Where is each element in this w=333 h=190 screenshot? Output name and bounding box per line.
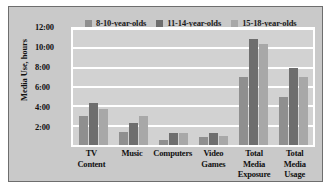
x-axis-tick-label-line: Music (112, 148, 153, 159)
bar (239, 77, 248, 145)
y-axis-tick-labels: 2:004:006:008:0010:0012:00 (35, 27, 69, 147)
y-axis-tick-label: 4:00 (35, 102, 69, 112)
legend-swatch-icon (85, 20, 92, 27)
bar (209, 133, 218, 145)
x-axis-tick-label: TotalMedia Usage (274, 148, 315, 180)
y-axis-tick-label: 6:00 (35, 82, 69, 92)
bar (219, 136, 228, 145)
x-axis-tick-label-line: Media Usage (274, 159, 315, 180)
bar (199, 137, 208, 145)
bar (179, 133, 188, 145)
legend-swatch-icon (231, 20, 238, 27)
bar (119, 132, 128, 145)
bar (79, 116, 88, 145)
plot-area (71, 27, 315, 147)
y-axis-tick-label: 10:00 (35, 42, 69, 52)
bar (159, 140, 168, 145)
y-axis-tick-label: 12:00 (35, 22, 69, 32)
x-axis-tick-label-line: Total (274, 148, 315, 159)
x-axis-tick-label-line: Computers (152, 148, 193, 159)
x-axis-tick-label: Music (112, 148, 153, 180)
bar (169, 133, 178, 145)
x-axis-tick-label-line: Total Media (234, 148, 275, 169)
bar (139, 116, 148, 145)
x-axis-tick-label: Computers (152, 148, 193, 180)
bar (129, 123, 138, 145)
bar-group (279, 29, 308, 145)
x-axis-tick-label: VideoGames (193, 148, 234, 180)
x-axis-tick-label-line: Video (193, 148, 234, 159)
bar (259, 44, 268, 146)
y-axis-tick-label: 8:00 (35, 62, 69, 72)
bar-group (159, 29, 188, 145)
bar (299, 77, 308, 145)
bar (99, 109, 108, 145)
bar (279, 97, 288, 145)
chart-figure: 8-10-year-olds11-14-year-olds15-18-year-… (8, 6, 323, 182)
bar-group (239, 29, 268, 145)
x-axis-tick-label-line: Games (193, 159, 234, 170)
bar (289, 68, 298, 145)
bar-group (119, 29, 148, 145)
legend-swatch-icon (156, 20, 163, 27)
x-axis-tick-label: TV Content (71, 148, 112, 180)
bar-group (199, 29, 228, 145)
y-axis-tick-label: 2:00 (35, 122, 69, 132)
bar (249, 39, 258, 145)
bar (89, 103, 98, 145)
y-axis-title: Media Use, hours (19, 22, 29, 118)
bars-layer (73, 29, 313, 145)
x-axis-tick-label-line: Exposure (234, 169, 275, 180)
x-axis-tick-labels: TV ContentMusicComputersVideoGamesTotal … (71, 148, 315, 180)
bar-group (79, 29, 108, 145)
x-axis-tick-label: Total MediaExposure (234, 148, 275, 180)
x-axis-tick-label-line: TV Content (71, 148, 112, 169)
